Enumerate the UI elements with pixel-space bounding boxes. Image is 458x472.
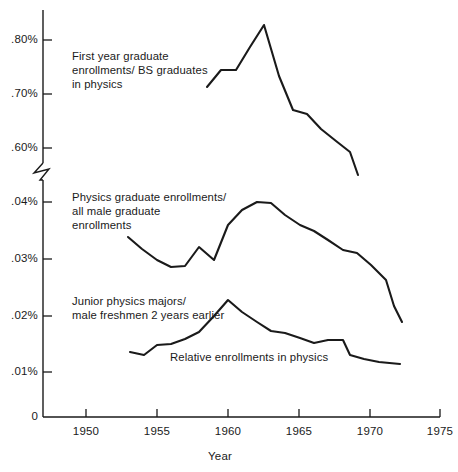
x-tick-label-1975: 1975 [410, 425, 458, 437]
y-tick-label-60: .60% [0, 141, 38, 153]
series-line-first-year-graduate [207, 25, 358, 175]
y-tick-label-02: .02% [0, 309, 38, 321]
y-tick-label-70: .70% [0, 87, 38, 99]
annotation-physics-graduate-enrollments: Physics graduate enrollments/ all male g… [72, 190, 226, 233]
x-tick-label-1965: 1965 [269, 425, 329, 437]
chart-container: .80% .70% .60% .04% .03% .02% .01% 0 195… [0, 0, 458, 472]
x-axis-title: Year [208, 450, 232, 462]
axis-break-icon [34, 163, 49, 180]
annotation-first-year-graduate: First year graduate enrollments/ BS grad… [72, 49, 208, 92]
y-tick-label-04: .04% [0, 195, 38, 207]
y-tick-label-03: .03% [0, 252, 38, 264]
chart-plot-area [0, 0, 458, 472]
y-tick-label-80: .80% [0, 33, 38, 45]
annotation-relative-enrollments: Relative enrollments in physics [170, 350, 328, 364]
annotation-junior-physics-majors: Junior physics majors/ male freshmen 2 y… [72, 294, 224, 322]
x-tick-label-1960: 1960 [198, 425, 258, 437]
x-tick-label-1955: 1955 [127, 425, 187, 437]
x-tick-label-1950: 1950 [56, 425, 116, 437]
x-tick-label-1970: 1970 [340, 425, 400, 437]
y-tick-label-0: 0 [0, 410, 38, 422]
y-tick-label-01: .01% [0, 365, 38, 377]
